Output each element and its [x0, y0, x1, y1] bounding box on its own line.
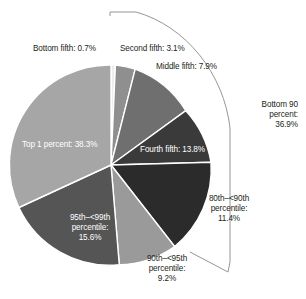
label-bottom-fifth: Bottom fifth: 0.7%: [33, 44, 96, 54]
label-bottom-90-percent: Bottom 90 percent: 36.9%: [236, 100, 298, 131]
label-p90-p95: 90th–<95th percentile: 9.2%: [133, 254, 201, 285]
label-p95-p99: 95th–<99th percentile: 15.6%: [56, 213, 124, 244]
label-second-fifth: Second fifth: 3.1%: [120, 44, 185, 54]
label-middle-fifth: Middle fifth: 7.9%: [156, 62, 217, 72]
label-top-1-percent: Top 1 percent: 38.3%: [22, 140, 97, 150]
label-p80-p90: 80th–<90th percentile: 11.4%: [198, 194, 260, 225]
label-fourth-fifth: Fourth fifth: 13.8%: [140, 145, 205, 155]
pie-chart: Bottom fifth: 0.7% Second fifth: 3.1% Mi…: [0, 0, 306, 299]
